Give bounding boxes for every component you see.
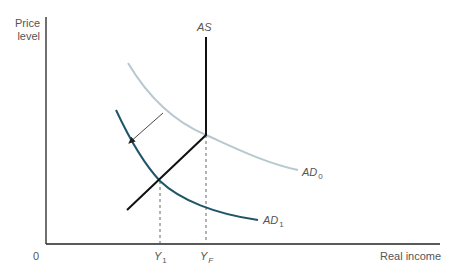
y-axis-label: Price level	[2, 17, 40, 42]
ad-as-diagram: Price level 0 Real income AS AD0 AD1 Y1 …	[0, 0, 462, 275]
yf-label-subscript: F	[208, 256, 213, 265]
as-curve	[127, 37, 206, 210]
as-label: AS	[197, 21, 212, 34]
shift-arrow	[129, 113, 163, 143]
y1-tick-label: Y1	[154, 250, 167, 263]
origin-label: 0	[33, 250, 39, 263]
y1-label-main: Y	[154, 250, 161, 262]
ad1-label-main: AD	[263, 214, 278, 226]
y1-label-subscript: 1	[162, 256, 166, 265]
ad0-curve	[128, 63, 298, 170]
ad1-label-subscript: 1	[279, 220, 283, 229]
ad1-label: AD1	[263, 214, 284, 227]
ad0-label-subscript: 0	[318, 172, 322, 181]
y-axis-label-line1: Price	[2, 17, 40, 30]
x-axis-label: Real income	[380, 250, 441, 263]
y-axis-label-line2: level	[2, 30, 40, 43]
yf-label-main: Y	[200, 250, 207, 262]
ad1-curve	[116, 110, 258, 220]
diagram-canvas	[0, 0, 462, 275]
yf-tick-label: YF	[200, 250, 213, 263]
ad0-label: AD0	[302, 166, 323, 179]
ad0-label-main: AD	[302, 166, 317, 178]
